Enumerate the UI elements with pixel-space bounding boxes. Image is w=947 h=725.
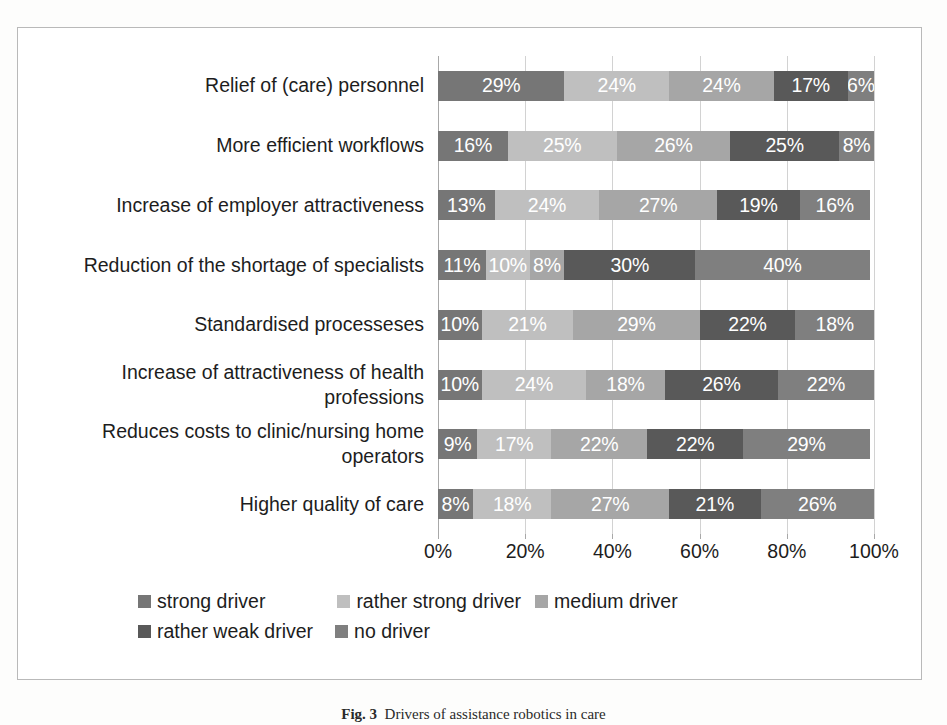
- bar-segment: 24%: [482, 370, 587, 400]
- legend-row-1: strong driverrather strong drivermedium …: [138, 586, 838, 616]
- bar-segment: 29%: [573, 310, 699, 340]
- bar-segment: 8%: [438, 489, 473, 519]
- bar-segment: 11%: [438, 250, 486, 280]
- bar-segment: 24%: [495, 190, 600, 220]
- bar-segment: 9%: [438, 429, 477, 459]
- legend-swatch-icon: [337, 595, 350, 608]
- bar-segment: 16%: [438, 131, 508, 161]
- x-tick-label: 80%: [767, 540, 806, 563]
- bar-segment: 19%: [717, 190, 800, 220]
- bar-segment: 8%: [530, 250, 565, 280]
- bar-segment: 10%: [438, 370, 482, 400]
- x-tick-label: 20%: [506, 540, 545, 563]
- caption-separator: [377, 706, 385, 722]
- bar-segment: 26%: [761, 489, 874, 519]
- bar-segment: 13%: [438, 190, 495, 220]
- bar-segment: 10%: [438, 310, 482, 340]
- category-label: Relief of (care) personnel: [18, 73, 424, 98]
- bar-row: 29%24%24%17%6%: [438, 71, 874, 101]
- bar-segment: 27%: [599, 190, 717, 220]
- legend-label: no driver: [354, 620, 430, 643]
- legend-label: rather strong driver: [356, 590, 521, 613]
- bar-row: 16%25%26%25%8%: [438, 131, 874, 161]
- bar-segment: 27%: [551, 489, 669, 519]
- bar-segment: 40%: [695, 250, 869, 280]
- figure-frame: Relief of (care) personnelMore efficient…: [17, 27, 922, 680]
- bar-segment: 21%: [669, 489, 761, 519]
- legend-item[interactable]: rather strong driver: [337, 590, 521, 613]
- bar-segment: 10%: [486, 250, 530, 280]
- bar-segment: 22%: [700, 310, 796, 340]
- bar-row: 10%21%29%22%18%: [438, 310, 874, 340]
- bar-segment: 18%: [586, 370, 664, 400]
- category-label: Increase of attractiveness of health pro…: [18, 360, 424, 410]
- bar-segment: 18%: [795, 310, 873, 340]
- bar-segment: 29%: [743, 429, 869, 459]
- tick-mark: [874, 534, 875, 539]
- bar-segment: 22%: [551, 429, 647, 459]
- bar-segment: 30%: [564, 250, 695, 280]
- x-tick-label: 60%: [680, 540, 719, 563]
- legend-item[interactable]: strong driver: [138, 590, 265, 613]
- bar-row: 9%17%22%22%29%: [438, 429, 874, 459]
- bar-segment: 6%: [848, 71, 874, 101]
- legend-item[interactable]: no driver: [335, 620, 430, 643]
- category-label: Increase of employer attractiveness: [18, 193, 424, 218]
- category-label: Reduction of the shortage of specialists: [18, 253, 424, 278]
- bar-rows: 29%24%24%17%6%16%25%26%25%8%13%24%27%19%…: [438, 56, 874, 534]
- legend-swatch-icon: [138, 595, 151, 608]
- figure-number: Fig. 3: [341, 706, 377, 722]
- category-label: Standardised processeses: [18, 312, 424, 337]
- category-axis-labels: Relief of (care) personnelMore efficient…: [18, 56, 432, 534]
- chart-area: Relief of (care) personnelMore efficient…: [18, 28, 923, 681]
- legend-item[interactable]: rather weak driver: [138, 620, 313, 643]
- chart-legend: strong driverrather strong drivermedium …: [138, 586, 838, 646]
- legend-swatch-icon: [335, 625, 348, 638]
- bar-segment: 26%: [665, 370, 778, 400]
- tick-mark: [787, 534, 788, 539]
- bar-segment: 21%: [482, 310, 574, 340]
- gridline: [874, 56, 875, 534]
- bar-segment: 24%: [564, 71, 669, 101]
- caption-text: Drivers of assistance robotics in care: [385, 706, 606, 722]
- x-tick-label: 100%: [849, 540, 899, 563]
- bar-segment: 25%: [730, 131, 839, 161]
- tick-mark: [612, 534, 613, 539]
- tick-mark: [700, 534, 701, 539]
- legend-label: medium driver: [554, 590, 678, 613]
- bar-segment: 25%: [508, 131, 617, 161]
- bar-segment: 22%: [778, 370, 874, 400]
- bar-row: 11%10%8%30%40%: [438, 250, 874, 280]
- x-tick-label: 0%: [424, 540, 452, 563]
- category-label: Reduces costs to clinic/nursing home ope…: [18, 419, 424, 469]
- bar-segment: 16%: [800, 190, 870, 220]
- bar-segment: 17%: [477, 429, 551, 459]
- bar-row: 10%24%18%26%22%: [438, 370, 874, 400]
- bar-segment: 18%: [473, 489, 551, 519]
- legend-item[interactable]: medium driver: [535, 590, 678, 613]
- bar-segment: 22%: [647, 429, 743, 459]
- tick-mark: [438, 534, 439, 539]
- legend-label: rather weak driver: [157, 620, 313, 643]
- category-label: More efficient workflows: [18, 133, 424, 158]
- x-axis-labels: 0%20%40%60%80%100%: [438, 540, 874, 570]
- bar-row: 13%24%27%19%16%: [438, 190, 874, 220]
- category-label: Higher quality of care: [18, 492, 424, 517]
- bar-segment: 29%: [438, 71, 564, 101]
- bar-segment: 8%: [839, 131, 874, 161]
- tick-mark: [525, 534, 526, 539]
- x-tick-label: 40%: [593, 540, 632, 563]
- bar-segment: 17%: [774, 71, 848, 101]
- legend-label: strong driver: [157, 590, 265, 613]
- bar-segment: 26%: [617, 131, 730, 161]
- legend-swatch-icon: [535, 595, 548, 608]
- legend-swatch-icon: [138, 625, 151, 638]
- legend-row-2: rather weak driverno driver: [138, 616, 838, 646]
- figure-caption: Fig. 3 Drivers of assistance robotics in…: [0, 706, 947, 723]
- plot-area: 29%24%24%17%6%16%25%26%25%8%13%24%27%19%…: [438, 56, 874, 534]
- bar-segment: 24%: [669, 71, 774, 101]
- bar-row: 8%18%27%21%26%: [438, 489, 874, 519]
